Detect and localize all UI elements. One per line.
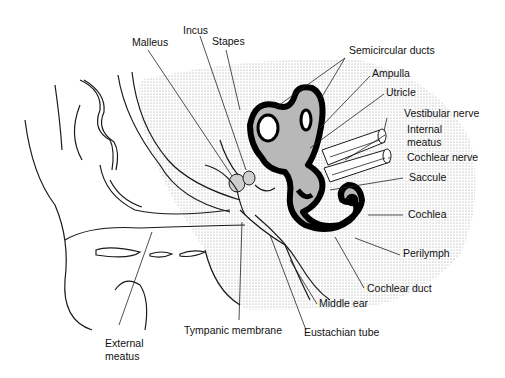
- label-stapes: Stapes: [212, 35, 245, 47]
- label-vestibular-nerve: Vestibular nerve: [404, 107, 479, 119]
- label-incus: Incus: [183, 24, 208, 36]
- label-external-meatus-line1: External: [105, 337, 144, 349]
- label-saccule: Saccule: [409, 171, 447, 183]
- label-semicircular-ducts: Semicircular ducts: [349, 44, 435, 56]
- label-cochlea: Cochlea: [408, 208, 447, 220]
- label-cochlear-nerve: Cochlear nerve: [407, 151, 478, 163]
- label-internal-meatus-line2: meatus: [407, 136, 441, 148]
- label-external-meatus-line2: meatus: [105, 350, 139, 362]
- label-cochlear-duct: Cochlear duct: [367, 282, 432, 294]
- label-tympanic-membrane: Tympanic membrane: [184, 324, 282, 336]
- ear-anatomy-diagram: Malleus Incus Stapes Semicircular ducts …: [0, 0, 505, 378]
- label-middle-ear: Middle ear: [319, 297, 369, 309]
- label-ampulla: Ampulla: [372, 67, 410, 79]
- label-eustachian-tube: Eustachian tube: [304, 326, 379, 338]
- label-malleus: Malleus: [132, 36, 168, 48]
- label-internal-meatus-line1: Internal: [407, 123, 442, 135]
- label-perilymph: Perilymph: [403, 247, 450, 259]
- label-utricle: Utricle: [386, 86, 416, 98]
